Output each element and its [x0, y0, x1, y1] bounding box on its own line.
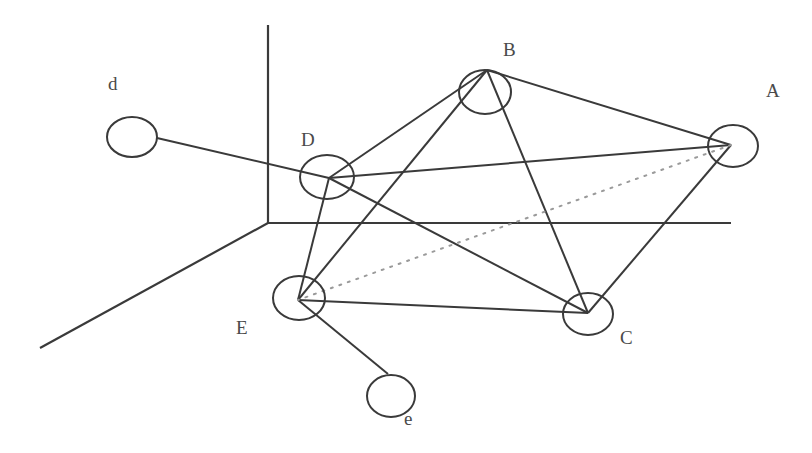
node-d-label: d [108, 73, 118, 94]
node-d-circle [107, 117, 157, 157]
coordinate-axes [40, 25, 731, 348]
edge-D-C [329, 178, 588, 313]
node-D-label: D [301, 129, 315, 150]
node-labels: ABCDEde [108, 39, 780, 429]
depth-axis [40, 223, 268, 348]
graph-diagram: ABCDEde [0, 0, 812, 453]
node-E-label: E [236, 317, 248, 338]
node-B-circle [459, 70, 511, 114]
node-e-label: e [404, 408, 412, 429]
edge-E-e [298, 300, 388, 374]
graph-nodes [107, 70, 758, 417]
edge-A-C [588, 145, 731, 313]
edge-D-B [329, 70, 487, 178]
edge-E-C [298, 300, 588, 313]
node-B-label: B [503, 39, 516, 60]
node-A-label: A [766, 80, 780, 101]
edge-B-C [487, 70, 588, 313]
edge-B-A [487, 70, 731, 145]
node-C-label: C [620, 327, 633, 348]
node-C-circle [563, 293, 613, 335]
